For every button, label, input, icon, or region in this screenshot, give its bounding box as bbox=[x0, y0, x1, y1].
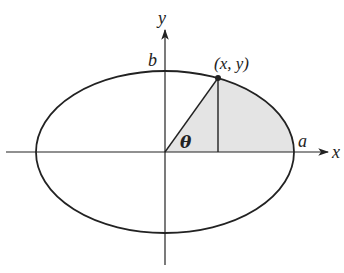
point-label: (x, y) bbox=[214, 54, 249, 73]
ellipse-diagram: y x b a (x, y) θ bbox=[0, 0, 344, 273]
semi-minor-label: b bbox=[148, 50, 157, 70]
point-marker bbox=[215, 75, 221, 81]
semi-major-label: a bbox=[298, 131, 307, 151]
angle-label: θ bbox=[180, 132, 192, 152]
x-axis-label: x bbox=[331, 142, 340, 162]
y-axis-label: y bbox=[156, 8, 166, 28]
